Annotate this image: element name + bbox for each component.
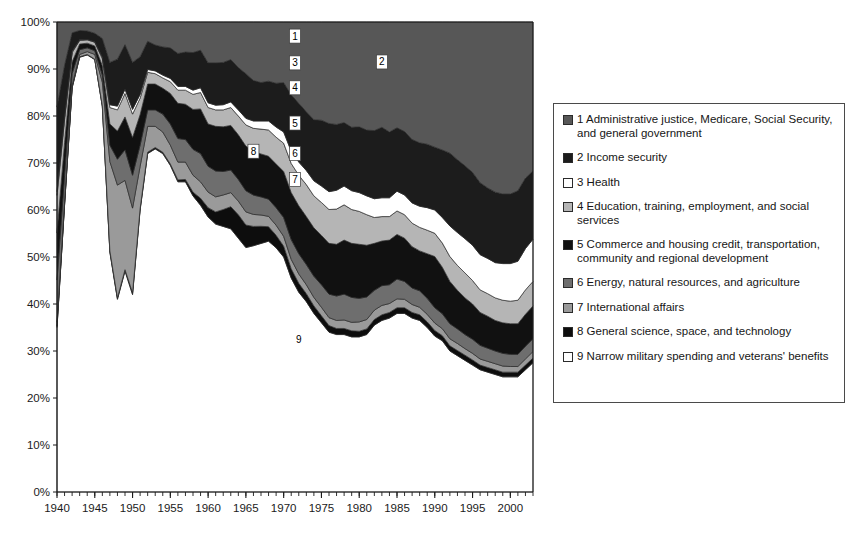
band-label-8: 8 (248, 144, 259, 158)
band-label-9: 9 (296, 334, 302, 345)
legend-swatch-icon-6 (563, 278, 573, 288)
legend-item-label: 5 Commerce and housing credit, transport… (577, 238, 836, 265)
x-tick-label: 1955 (158, 502, 184, 514)
y-tick-label: 100% (21, 16, 50, 28)
chart-panel: 0%10%20%30%40%50%60%70%80%90%100% 194019… (0, 0, 545, 538)
legend-item-label: 6 Energy, natural resources, and agricul… (577, 276, 800, 290)
x-tick-label: 1965 (233, 502, 259, 514)
x-axis-tick-labels: 1940194519501955196019651970197519801985… (44, 502, 523, 514)
x-tick-label: 1945 (82, 502, 108, 514)
x-tick-label: 1990 (422, 502, 448, 514)
x-tick-label: 1940 (44, 502, 70, 514)
legend-item-label: 1 Administrative justice, Medicare, Soci… (577, 113, 836, 140)
legend-item-label: 3 Health (577, 176, 620, 190)
band-label-2: 2 (376, 55, 387, 69)
x-tick-label: 1980 (346, 502, 372, 514)
band-label-4: 4 (290, 81, 301, 95)
legend-item-7[interactable]: 7 International affairs (563, 301, 836, 315)
band-label-text: 1 (292, 31, 298, 42)
band-label-text: 6 (292, 148, 298, 159)
band-label-text: 2 (379, 56, 385, 67)
y-tick-label: 20% (27, 392, 50, 404)
x-tick-label: 1985 (384, 502, 410, 514)
legend-item-1[interactable]: 1 Administrative justice, Medicare, Soci… (563, 113, 836, 140)
y-axis-tick-labels: 0%10%20%30%40%50%60%70%80%90%100% (21, 16, 50, 498)
legend-item-label: 4 Education, training, employment, and s… (577, 200, 836, 227)
x-tick-label: 1995 (460, 502, 486, 514)
legend-item-label: 8 General science, space, and technology (577, 325, 791, 339)
band-label-6: 6 (290, 147, 301, 161)
legend-item-4[interactable]: 4 Education, training, employment, and s… (563, 200, 836, 227)
legend-item-8[interactable]: 8 General science, space, and technology (563, 325, 836, 339)
legend-items-list: 1 Administrative justice, Medicare, Soci… (563, 113, 836, 363)
band-label-5: 5 (290, 116, 301, 130)
y-tick-label: 30% (27, 345, 50, 357)
chart-legend: 1 Administrative justice, Medicare, Soci… (553, 103, 845, 403)
legend-item-label: 2 Income security (577, 151, 667, 165)
legend-item-label: 9 Narrow military spending and veterans'… (577, 350, 829, 364)
legend-item-9[interactable]: 9 Narrow military spending and veterans'… (563, 350, 836, 364)
band-label-1: 1 (290, 29, 301, 43)
y-tick-label: 50% (27, 251, 50, 263)
legend-item-6[interactable]: 6 Energy, natural resources, and agricul… (563, 276, 836, 290)
legend-item-3[interactable]: 3 Health (563, 176, 836, 190)
legend-swatch-icon-1 (563, 115, 573, 125)
band-label-text: 8 (251, 146, 257, 157)
y-tick-label: 60% (27, 204, 50, 216)
x-tick-label: 2000 (498, 502, 524, 514)
legend-swatch-icon-8 (563, 327, 573, 337)
x-tick-label: 1970 (271, 502, 297, 514)
band-label-text: 5 (292, 118, 298, 129)
y-tick-label: 90% (27, 63, 50, 75)
y-tick-label: 40% (27, 298, 50, 310)
band-label-text: 3 (292, 57, 298, 68)
y-tick-label: 10% (27, 439, 50, 451)
x-tick-label: 1960 (195, 502, 221, 514)
x-tick-label: 1975 (309, 502, 335, 514)
legend-item-5[interactable]: 5 Commerce and housing credit, transport… (563, 238, 836, 265)
band-label-text: 7 (292, 174, 298, 185)
legend-swatch-icon-7 (563, 303, 573, 313)
x-tick-label: 1950 (120, 502, 146, 514)
band-label-text: 9 (296, 334, 302, 345)
y-tick-label: 70% (27, 157, 50, 169)
y-tick-label: 80% (27, 110, 50, 122)
band-label-text: 4 (292, 82, 298, 93)
legend-swatch-icon-5 (563, 240, 573, 250)
legend-swatch-icon-4 (563, 202, 573, 212)
legend-item-2[interactable]: 2 Income security (563, 151, 836, 165)
legend-swatch-icon-3 (563, 178, 573, 188)
band-label-7: 7 (290, 172, 301, 186)
legend-swatch-icon-9 (563, 352, 573, 362)
legend-item-label: 7 International affairs (577, 301, 684, 315)
y-tick-label: 0% (33, 486, 50, 498)
band-label-3: 3 (290, 56, 301, 70)
stacked-area-chart: 0%10%20%30%40%50%60%70%80%90%100% 194019… (0, 0, 545, 538)
legend-swatch-icon-2 (563, 153, 573, 163)
